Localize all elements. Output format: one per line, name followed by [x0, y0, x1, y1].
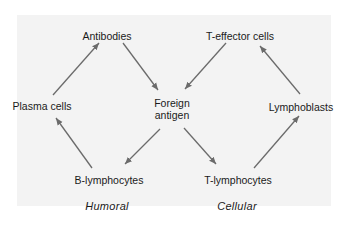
category-cellular: Cellular	[217, 200, 257, 212]
node-antibodies: Antibodies	[82, 30, 131, 42]
arrow-antigen-to-blymph	[125, 129, 160, 164]
node-b-lymphocytes: B-lymphocytes	[75, 174, 144, 186]
arrow-teffector-to-antigen	[185, 43, 226, 89]
node-t-effector-cells: T-effector cells	[206, 30, 274, 42]
arrow-plasma-to-antibodies	[53, 43, 99, 95]
node-foreign-antigen-line1: Foreign	[154, 97, 190, 109]
arrow-lymphoblasts-to-teffector	[260, 46, 300, 94]
node-lymphoblasts: Lymphoblasts	[269, 101, 333, 113]
arrow-antibodies-to-antigen	[123, 43, 158, 90]
arrow-blymph-to-plasma	[56, 118, 92, 168]
arrow-tlymph-to-lymphoblasts	[254, 116, 299, 168]
node-t-lymphocytes: T-lymphocytes	[204, 174, 272, 186]
node-foreign-antigen: Foreign antigen	[154, 97, 190, 121]
node-foreign-antigen-line2: antigen	[154, 109, 190, 121]
node-plasma-cells: Plasma cells	[13, 100, 72, 112]
category-humoral: Humoral	[85, 200, 129, 212]
arrow-antigen-to-tlymph	[184, 128, 216, 164]
